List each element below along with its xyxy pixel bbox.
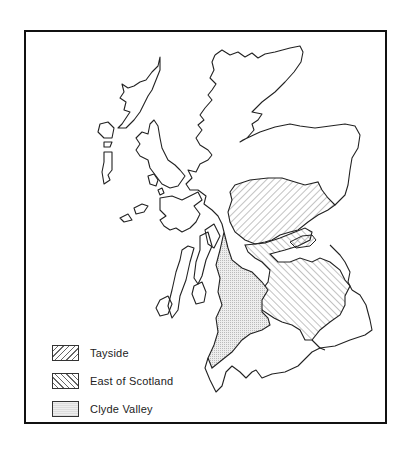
island-jura bbox=[168, 246, 194, 318]
island-islay bbox=[156, 296, 172, 316]
island-uist-north bbox=[104, 142, 112, 147]
legend-item-tayside: Tayside bbox=[52, 339, 173, 367]
tayside-swatch bbox=[52, 345, 79, 361]
kintyre-peninsula bbox=[194, 232, 212, 284]
island-mull bbox=[160, 192, 202, 232]
mainland-west-coast bbox=[196, 55, 216, 155]
map-legend: Tayside East of Scotland Clyde Valley bbox=[52, 339, 173, 423]
island-skye bbox=[136, 120, 185, 188]
clyde-valley-swatch bbox=[52, 401, 79, 417]
legend-label: Clyde Valley bbox=[90, 403, 153, 415]
legend-label: Tayside bbox=[90, 347, 129, 359]
island-arran bbox=[192, 282, 206, 304]
legend-item-clyde-valley: Clyde Valley bbox=[52, 395, 173, 423]
island-harris bbox=[98, 122, 114, 138]
island-tiree bbox=[120, 214, 132, 222]
east-of-scotland-swatch bbox=[52, 373, 79, 389]
island-coll bbox=[134, 204, 148, 214]
tayside-region bbox=[228, 178, 335, 244]
loch-inlet bbox=[205, 224, 220, 248]
island-lewis bbox=[118, 57, 160, 128]
legend-label: East of Scotland bbox=[90, 375, 173, 387]
island-uist-south bbox=[102, 152, 112, 184]
island-canna bbox=[158, 188, 164, 195]
west-highlands-coast bbox=[186, 155, 224, 232]
legend-item-east-of-scotland: East of Scotland bbox=[52, 367, 173, 395]
